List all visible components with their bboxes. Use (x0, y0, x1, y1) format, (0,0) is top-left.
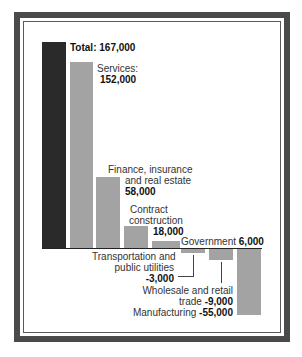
leader-transportation-horizontal (178, 276, 194, 277)
label-wholesale-line2: trade (179, 296, 202, 307)
label-transportation: Transportation and public utilities -3,0… (92, 251, 174, 284)
bar-government (152, 241, 180, 248)
label-government: Government 6,000 (181, 236, 264, 247)
leader-transportation-vertical (193, 255, 194, 276)
label-finance: Finance, insurance and real estate 58,00… (108, 164, 193, 197)
bar-manufacturing (237, 248, 261, 315)
label-transportation-value: -3,000 (146, 273, 174, 284)
label-construction-value: 18,000 (153, 226, 184, 237)
bar-total (42, 42, 66, 248)
label-construction: Contract construction 18,000 (129, 204, 184, 237)
bar-wholesale (209, 248, 233, 260)
bar-services (70, 62, 93, 248)
label-transportation-line1: Transportation and (92, 251, 174, 262)
label-manufacturing: Manufacturing -55,000 (120, 307, 233, 318)
label-total-value: 167,000 (99, 42, 135, 53)
label-manufacturing-name: Manufacturing (133, 307, 196, 318)
label-total-name: Total: (70, 42, 96, 53)
label-construction-line1: Contract (129, 204, 184, 215)
label-finance-value: 58,000 (125, 186, 156, 197)
label-transportation-line2: public utilities (92, 262, 174, 273)
label-manufacturing-value: -55,000 (199, 307, 233, 318)
leader-wholesale-vertical (221, 262, 222, 283)
label-total: Total: 167,000 (70, 42, 135, 53)
label-wholesale: Wholesale and retail trade -9,000 (140, 285, 233, 307)
label-finance-line2: and real estate (108, 175, 193, 186)
label-wholesale-value: -9,000 (205, 296, 233, 307)
label-government-value: 6,000 (239, 236, 264, 247)
label-finance-line1: Finance, insurance (108, 164, 193, 175)
label-wholesale-line1: Wholesale and retail (140, 285, 233, 296)
label-services-value: 152,000 (100, 74, 136, 85)
label-services: Services: 152,000 (97, 63, 138, 85)
employment-change-chart: Total: 167,000 Services: 152,000 Finance… (0, 0, 302, 357)
label-government-name: Government (181, 236, 236, 247)
label-construction-line2: construction (129, 215, 184, 226)
zero-baseline (42, 248, 262, 249)
label-services-name: Services: (97, 63, 138, 74)
